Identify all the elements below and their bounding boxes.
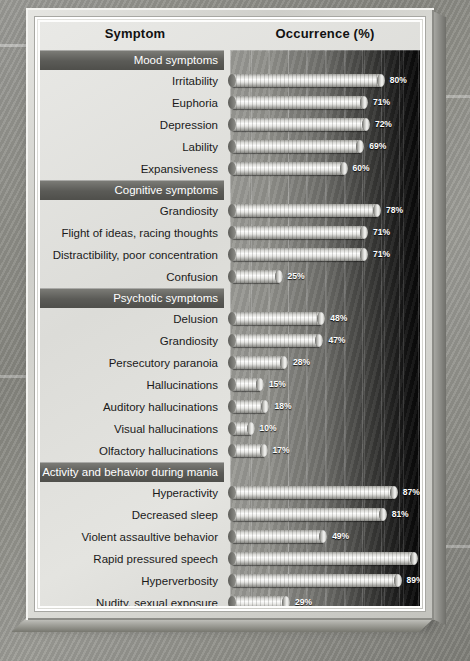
bar-end-cap: [319, 530, 327, 543]
bar: [232, 378, 260, 391]
section-label: Psychotic symptoms: [40, 288, 224, 308]
bar-value-label: 28%: [293, 356, 310, 369]
header-occurrence: Occurrence (%): [230, 26, 420, 41]
chart-slab-frame: Symptom Occurrence (%) Mood symptomsIrri…: [26, 8, 434, 620]
category-label: Persecutory paranoia: [40, 352, 224, 374]
category-label: Rapid pressured speech: [40, 548, 224, 570]
bar-value-label: 72%: [375, 118, 392, 131]
bar-start-cap: [228, 96, 236, 109]
bar-value-label: 87%: [403, 486, 420, 499]
bar-end-cap: [410, 552, 418, 565]
bar-end-cap: [373, 204, 381, 217]
chart-row: Decreased sleep81%: [40, 504, 420, 526]
bar-start-cap: [228, 270, 236, 283]
chart-row: Hallucinations15%: [40, 374, 420, 396]
section-plot-gap: [230, 288, 420, 308]
section-label: Mood symptoms: [40, 50, 224, 70]
bar-start-cap: [228, 118, 236, 131]
bar-track: 78%: [230, 200, 420, 222]
bar-value-label: 71%: [373, 226, 390, 239]
category-label: Nudity, sexual exposure: [40, 592, 224, 608]
bar-track: 81%: [230, 504, 420, 526]
bar-end-cap: [340, 162, 348, 175]
bar-ribs: [232, 530, 323, 543]
bar: [232, 140, 360, 153]
bar-start-cap: [228, 204, 236, 217]
bar: [232, 118, 366, 131]
bar-ribs: [232, 486, 394, 499]
bar-end-cap: [379, 508, 387, 521]
bar-ribs: [232, 248, 364, 261]
bar: [232, 444, 264, 457]
bar: [232, 270, 279, 283]
chart-row: Auditory hallucinations18%: [40, 396, 420, 418]
bar-value-label: 48%: [330, 312, 347, 325]
category-label: Hyperverbosity: [40, 570, 224, 592]
category-label: Distractibility, poor concentration: [40, 244, 224, 266]
category-label: Expansiveness: [40, 158, 224, 180]
chart-row: Lability69%: [40, 136, 420, 158]
bar-start-cap: [228, 530, 236, 543]
chart-row: Expansiveness60%: [40, 158, 420, 180]
bar-track: 17%: [230, 440, 420, 462]
bar-track: 72%: [230, 114, 420, 136]
bar-ribs: [232, 334, 319, 347]
bar-end-cap: [315, 334, 323, 347]
chart-row: Delusion48%: [40, 308, 420, 330]
bar-end-cap: [360, 96, 368, 109]
bar-start-cap: [228, 574, 236, 587]
category-label: Violent assaultive behavior: [40, 526, 224, 548]
category-label: Visual hallucinations: [40, 418, 224, 440]
header-symptom: Symptom: [40, 26, 230, 41]
category-label: Flight of ideas, racing thoughts: [40, 222, 224, 244]
bar-ribs: [232, 140, 360, 153]
bar-track: 71%: [230, 92, 420, 114]
section-plot-gap: [230, 462, 420, 482]
bar-ribs: [232, 226, 364, 239]
bar-value-label: 71%: [373, 96, 390, 109]
bar: [232, 508, 383, 521]
category-label: Irritability: [40, 70, 224, 92]
category-label: Grandiosity: [40, 330, 224, 352]
bar-value-label: 81%: [392, 508, 409, 521]
bar-end-cap: [360, 248, 368, 261]
bar-value-label: 60%: [353, 162, 370, 175]
section-plot-gap: [230, 50, 420, 70]
bar-end-cap: [377, 74, 385, 87]
bar-start-cap: [228, 378, 236, 391]
bar-track: 18%: [230, 396, 420, 418]
chart-row: Grandiosity47%: [40, 330, 420, 352]
chart-row: Nudity, sexual exposure29%: [40, 592, 420, 608]
category-label: Decreased sleep: [40, 504, 224, 526]
bar-value-label: 17%: [273, 444, 290, 457]
bar-start-cap: [228, 422, 236, 435]
bar-value-label: 89%: [407, 574, 422, 587]
bar: [232, 400, 265, 413]
bar-value-label: 71%: [373, 248, 390, 261]
bar-ribs: [232, 74, 381, 87]
section-label: Cognitive symptoms: [40, 180, 224, 200]
bar-start-cap: [228, 444, 236, 457]
chart-row: Violent assaultive behavior49%: [40, 526, 420, 548]
bar: [232, 596, 286, 608]
bar-end-cap: [247, 422, 255, 435]
bar-start-cap: [228, 596, 236, 608]
chart-row: Euphoria71%: [40, 92, 420, 114]
bar-value-label: 80%: [390, 74, 407, 87]
section-label: Activity and behavior during mania: [40, 462, 224, 482]
bar-start-cap: [228, 140, 236, 153]
bar-end-cap: [390, 486, 398, 499]
chart-row: Distractibility, poor concentration71%: [40, 244, 420, 266]
bar-start-cap: [228, 248, 236, 261]
chart-row: Flight of ideas, racing thoughts71%: [40, 222, 420, 244]
bar-end-cap: [261, 400, 269, 413]
bar: [232, 226, 364, 239]
bar-track: 71%: [230, 222, 420, 244]
bar-track: 89%: [230, 570, 420, 592]
bar-start-cap: [228, 312, 236, 325]
bar: [232, 312, 321, 325]
bar-ribs: [232, 400, 265, 413]
bar-value-label: 78%: [386, 204, 403, 217]
slab-bottom-edge: [12, 618, 434, 632]
chart-row: Hyperverbosity89%: [40, 570, 420, 592]
